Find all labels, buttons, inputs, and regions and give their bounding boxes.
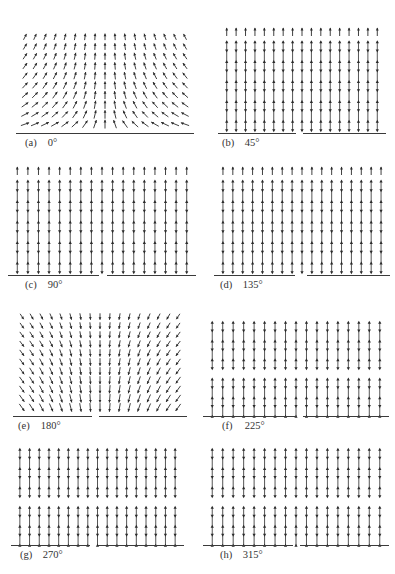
vector-field-plot [15,445,180,549]
vector-field-plot [222,24,382,137]
panel-e [17,310,183,416]
panel-letter: (c) [25,279,45,290]
phase-angle: 315° [240,549,263,560]
panel-letter: (d) [220,279,240,290]
panel-caption-c: (c) 90° [25,279,62,290]
baseline-segment [203,416,295,417]
baseline-segment [303,416,389,417]
panel-caption-g: (g) 270° [20,549,63,560]
phase-angle: 225° [242,420,265,431]
vector-field-plot [207,318,385,420]
panel-letter: (g) [20,549,40,560]
vector-field-plot [17,310,183,420]
panel-caption-b: (b) 45° [222,137,259,148]
phase-angle: 180° [38,420,61,431]
baseline-a [16,133,194,134]
panel-caption-d: (d) 135° [220,279,263,290]
phase-angle: 45° [242,137,259,148]
baseline-segment [99,416,187,417]
baseline-segment [218,133,296,134]
baseline-segment [13,416,92,417]
panel-a [20,30,190,133]
panel-c [12,163,192,275]
panel-letter: (f) [222,420,242,431]
baseline-segment [303,133,386,134]
baseline-segment [203,545,293,546]
vector-field-plot [218,163,386,279]
panel-letter: (e) [18,420,38,431]
phase-angle: 0° [45,137,57,148]
baseline-segment [307,275,390,276]
panel-g [15,445,180,545]
baseline-segment [214,275,295,276]
panel-letter: (b) [222,137,242,148]
phase-angle: 270° [40,549,63,560]
baseline-segment [107,275,196,276]
panel-letter: (h) [220,549,240,560]
vector-field-plot [207,445,385,549]
baseline-segment [98,545,184,546]
panel-caption-h: (h) 315° [220,549,263,560]
panel-f [207,318,385,416]
panel-caption-a: (a) 0° [25,137,57,148]
baseline-segment [8,275,99,276]
baseline-segment [11,545,90,546]
vector-field-plot [12,163,192,279]
baseline-segment [300,545,389,546]
panel-d [218,163,386,275]
panel-b [222,24,382,133]
phase-angle: 135° [240,279,263,290]
panel-caption-e: (e) 180° [18,420,61,431]
panel-letter: (a) [25,137,45,148]
vector-field-plot [20,30,190,137]
panel-h [207,445,385,545]
panel-caption-f: (f) 225° [222,420,265,431]
phase-angle: 90° [45,279,62,290]
